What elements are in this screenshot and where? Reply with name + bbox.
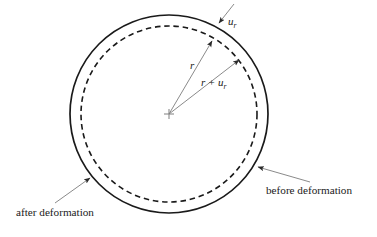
displacement-label: ur [228, 15, 237, 30]
deformed-radius-operator: + [208, 76, 214, 88]
displacement-subscript: r [234, 21, 237, 30]
after-deformation-leader [55, 178, 90, 203]
diagram-canvas: ur r r+ur after deformation before defor… [0, 0, 377, 237]
radius-symbol: r [190, 59, 195, 71]
before-deformation-label: before deformation [266, 184, 352, 196]
before-deformation-leader [258, 167, 310, 182]
deformed-radius-term-subscript: r [223, 82, 226, 91]
radius-label: r [190, 59, 195, 71]
deformed-radius-label: r+ur [201, 76, 226, 91]
radius-arrow [169, 41, 212, 114]
deformed-radius-symbol: r [201, 76, 206, 88]
after-deformation-label: after deformation [16, 206, 94, 218]
deformation-diagram: ur r r+ur after deformation before defor… [0, 0, 377, 237]
